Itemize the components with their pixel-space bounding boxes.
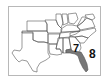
state-kansas: [27, 21, 47, 31]
southern-us-map: [0, 0, 109, 81]
state-maryland: [85, 14, 95, 20]
state-texas: [12, 32, 50, 72]
state-mississippi: [56, 38, 63, 53]
map-label-7: 7: [73, 43, 79, 54]
state-oklahoma: [22, 31, 48, 43]
state-west-virginia: [77, 17, 86, 26]
state-arkansas: [48, 34, 60, 44]
state-ohio: [68, 13, 78, 24]
state-indiana: [62, 14, 68, 25]
map-label-8: 8: [89, 48, 96, 60]
